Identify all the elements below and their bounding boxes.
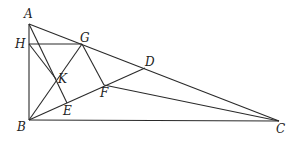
segment-ae — [29, 24, 67, 103]
labels: AHBGKEFDC — [14, 7, 285, 136]
point-label-d: D — [144, 55, 155, 69]
point-label-f: F — [99, 86, 109, 100]
segment-gf — [82, 44, 104, 85]
segment-bd — [29, 68, 145, 120]
segment-bc — [29, 120, 279, 121]
point-label-b: B — [16, 120, 26, 134]
geometry-diagram: AHBGKEFDC — [0, 0, 299, 146]
point-label-e: E — [62, 104, 72, 118]
point-label-k: K — [57, 72, 68, 86]
point-label-a: A — [23, 7, 33, 21]
segment-fc — [104, 85, 279, 121]
point-label-g: G — [80, 31, 90, 45]
point-label-h: H — [14, 37, 26, 51]
segment-hk — [29, 44, 56, 79]
point-label-c: C — [276, 122, 285, 136]
